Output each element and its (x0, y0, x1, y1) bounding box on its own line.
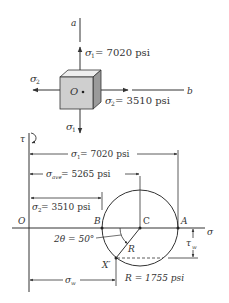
tau-w-sub: w (192, 244, 197, 250)
element-origin-dot (82, 91, 85, 94)
sigma1-bottom-subscript: 1 (72, 126, 76, 133)
radius-value: R = 1755 psi (124, 273, 184, 283)
angle-arc (120, 228, 128, 244)
tau-sign-convention-icon (31, 133, 36, 143)
point-A-label: A (180, 216, 188, 226)
sigma1-value: = 7020 psi (95, 47, 150, 58)
b-axis-label: b (187, 86, 193, 96)
point-Xprime-label: X′ (101, 260, 110, 270)
stress-element: a σ 1 = 7020 psi O σ 1 σ 2 b σ 2 = 3510 … (30, 18, 193, 133)
point-B-dot (101, 227, 104, 230)
dim-sigma1-text: = 7020 psi (80, 149, 130, 159)
mohr-origin-label: O (18, 216, 26, 226)
dim-sigma-w-sub: w (71, 280, 76, 286)
sigma-axis-label: σ (207, 227, 214, 237)
angle-leader-line (96, 235, 121, 238)
tau-axis-label: τ (20, 134, 26, 144)
dim-sigma-ave-text: = 5265 psi (61, 169, 111, 179)
angle-label: 2θ = 50° (53, 234, 94, 244)
sigma2-left-subscript: 2 (36, 78, 40, 85)
diagram-canvas: a σ 1 = 7020 psi O σ 1 σ 2 b σ 2 = 3510 … (0, 0, 229, 303)
stress-diagram: a σ 1 = 7020 psi O σ 1 σ 2 b σ 2 = 3510 … (0, 0, 229, 303)
a-axis-label: a (71, 18, 76, 28)
dim-sigma2-text: = 3510 psi (41, 202, 91, 212)
point-A-dot (177, 227, 180, 230)
cube-side-face (93, 70, 101, 109)
sigma2-value: = 3510 psi (115, 95, 170, 106)
mohr-circle-diagram: τ σ O σ 1 = 7020 psi σ ave = 5265 psi σ … (12, 133, 214, 292)
radius-label: R (127, 244, 135, 254)
element-origin-label: O (70, 86, 78, 97)
point-B-label: B (93, 216, 101, 226)
point-C-label: C (143, 216, 150, 226)
